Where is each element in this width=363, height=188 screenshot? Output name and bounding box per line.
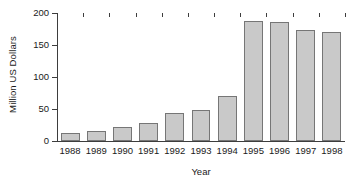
y-axis-title-label: Million US Dollars xyxy=(7,36,18,113)
bar xyxy=(87,131,106,141)
x-axis-tick xyxy=(57,13,58,17)
plot-area: 050100150200 xyxy=(57,13,345,141)
bar xyxy=(244,21,263,141)
x-axis-tick-label: 1996 xyxy=(266,145,292,157)
x-axis-tick-label: 1988 xyxy=(57,145,83,157)
x-axis-tick-label: 1989 xyxy=(83,145,109,157)
x-axis-tick-label: 1995 xyxy=(240,145,266,157)
bar xyxy=(139,123,158,141)
y-axis-tick-label: 50 xyxy=(38,103,49,114)
x-axis-title-label: Year xyxy=(191,166,210,177)
x-axis-tick xyxy=(240,13,241,17)
bar xyxy=(296,30,315,141)
bar xyxy=(61,133,80,141)
x-axis-tick xyxy=(188,13,189,17)
x-axis-tick xyxy=(266,13,267,17)
y-axis-title: Million US Dollars xyxy=(2,0,22,148)
y-axis-tick-label: 200 xyxy=(33,7,49,18)
y-axis-tick-label: 100 xyxy=(33,71,49,82)
x-axis-tick xyxy=(214,13,215,17)
x-axis-tick xyxy=(136,13,137,17)
x-axis-tick xyxy=(319,13,320,17)
bar xyxy=(165,113,184,141)
y-axis-tick: 100 xyxy=(52,77,57,78)
x-axis-title: Year xyxy=(57,166,345,177)
bar xyxy=(113,127,132,141)
x-axis-tick xyxy=(345,13,346,17)
x-axis-tick-label: 1993 xyxy=(188,145,214,157)
bar-chart-figure: Million US Dollars 050100150200 19881989… xyxy=(0,0,363,188)
y-axis-tick: 0 xyxy=(52,141,57,142)
y-axis-tick-label: 0 xyxy=(44,135,49,146)
y-axis-tick-label: 150 xyxy=(33,39,49,50)
x-axis-tick xyxy=(83,13,84,17)
x-axis-tick-label: 1997 xyxy=(293,145,319,157)
bar xyxy=(270,22,289,141)
bar xyxy=(322,32,341,141)
bar xyxy=(192,110,211,141)
bar xyxy=(218,96,237,141)
x-axis-tick-label: 1990 xyxy=(109,145,135,157)
y-axis-tick: 50 xyxy=(52,109,57,110)
x-axis-tick xyxy=(109,13,110,17)
y-axis-tick: 150 xyxy=(52,45,57,46)
x-axis-tick-label: 1991 xyxy=(136,145,162,157)
x-axis-tick-label: 1992 xyxy=(162,145,188,157)
x-axis-tick-label: 1998 xyxy=(319,145,345,157)
x-axis-tick xyxy=(162,13,163,17)
x-axis-tick-label: 1994 xyxy=(214,145,240,157)
x-axis-tick xyxy=(293,13,294,17)
x-axis-line xyxy=(57,141,345,142)
x-axis-tick-labels: 1988198919901991199219931994199519961997… xyxy=(57,145,345,159)
